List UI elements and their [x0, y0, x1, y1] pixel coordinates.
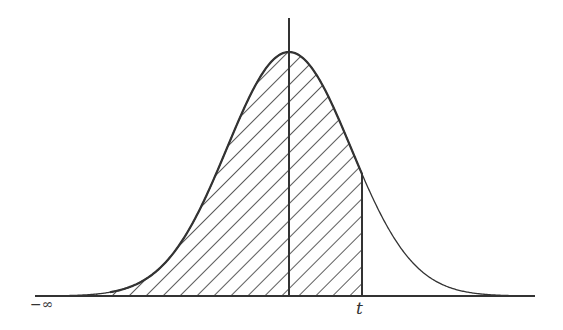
negative-infinity-label: −∞	[30, 296, 53, 312]
t-label: t	[356, 298, 363, 318]
normal-curve-diagram	[0, 0, 563, 330]
shaded-area	[80, 52, 362, 296]
